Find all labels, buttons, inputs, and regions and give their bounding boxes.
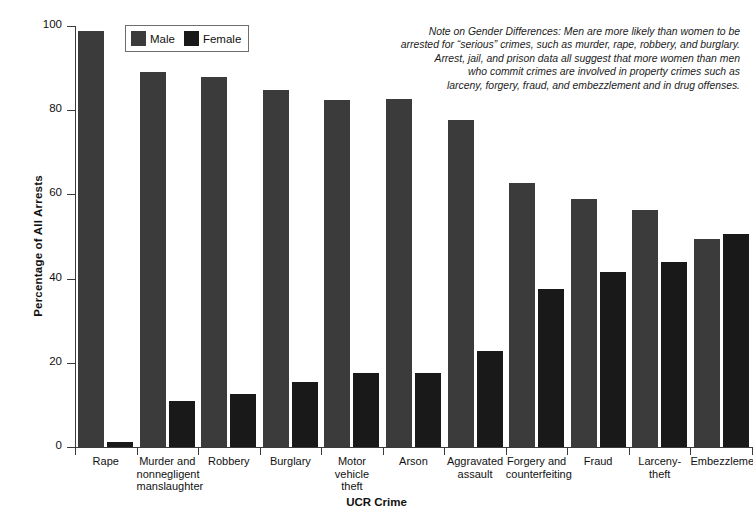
category-label-line: Forgery and	[506, 455, 568, 468]
note-line: larceny, forgery, fraud, and embezzlemen…	[400, 79, 740, 92]
category-label-line: assault	[444, 468, 506, 481]
y-axis-tick-label: 100	[22, 18, 62, 30]
y-axis-tick	[67, 363, 76, 364]
bar-female	[107, 442, 133, 447]
bar-female	[353, 373, 379, 447]
category-label-line: Arson	[383, 455, 445, 468]
bar-male	[201, 77, 227, 447]
category-label-line: counterfeiting	[506, 468, 568, 481]
x-axis-title: UCR Crime	[0, 496, 753, 508]
x-axis-category-label: Murder andnonnegligentmanslaughter	[137, 455, 199, 493]
bar-chart: 020406080100 Percentage of All Arrests R…	[0, 0, 753, 520]
x-axis-category-label: Larceny-theft	[629, 455, 691, 480]
bar-female	[230, 394, 256, 447]
category-label-line: Murder and	[137, 455, 199, 468]
bar-male	[140, 72, 166, 447]
bar-female	[600, 272, 626, 447]
y-axis-line	[75, 26, 76, 448]
x-axis-category-label: Rape	[75, 455, 137, 468]
category-label-line: theft	[321, 480, 383, 493]
bar-female	[292, 382, 318, 447]
x-axis-tick	[198, 447, 199, 455]
note-line: who commit crimes are involved in proper…	[400, 65, 740, 78]
bar-female	[538, 289, 564, 447]
bar-female	[415, 373, 441, 447]
x-axis-category-label: Aggravatedassault	[444, 455, 506, 480]
legend-swatch-male-icon	[131, 31, 146, 46]
bar-female	[661, 262, 687, 447]
y-axis-tick-label: 0	[22, 439, 62, 451]
x-axis-category-label: Fraud	[567, 455, 629, 468]
x-axis-tick	[444, 447, 445, 455]
legend-label-male: Male	[150, 33, 175, 45]
category-label-line: manslaughter	[137, 480, 199, 493]
x-axis-tick	[629, 447, 630, 455]
y-axis-title-wrap: Percentage of All Arrests	[18, 40, 40, 420]
bar-male	[694, 239, 720, 447]
bar-male	[263, 90, 289, 447]
x-axis-tick	[567, 447, 568, 455]
x-axis-category-label: Forgery andcounterfeiting	[506, 455, 568, 480]
x-axis-category-label: Robbery	[198, 455, 260, 468]
x-axis-tick	[506, 447, 507, 455]
note-line: arrested for “serious” crimes, such as m…	[400, 38, 740, 51]
category-label-line: Burglary	[260, 455, 322, 468]
bar-male	[448, 120, 474, 447]
x-axis-tick	[260, 447, 261, 455]
category-label-line: Robbery	[198, 455, 260, 468]
y-axis-tick	[67, 279, 76, 280]
bar-female	[169, 401, 195, 447]
bar-female	[723, 234, 749, 447]
y-axis-tick	[67, 110, 76, 111]
y-axis-tick	[67, 26, 76, 27]
note-line: Arrest, jail, and prison data all sugges…	[400, 52, 740, 65]
note-line: Note on Gender Differences: Men are more…	[400, 25, 740, 38]
legend-label-female: Female	[203, 33, 241, 45]
bar-female	[477, 351, 503, 447]
x-axis-category-label: Motor vehicletheft	[321, 455, 383, 493]
x-axis-tick	[383, 447, 384, 455]
category-label-line: Aggravated	[444, 455, 506, 468]
x-axis-tick	[137, 447, 138, 455]
x-axis-tick	[75, 447, 76, 455]
category-label-line: theft	[629, 468, 691, 481]
bar-male	[632, 210, 658, 447]
bar-male	[571, 199, 597, 447]
legend-swatch-female-icon	[184, 31, 199, 46]
legend-item-male: Male	[131, 31, 175, 46]
y-axis-tick	[67, 194, 76, 195]
x-axis-category-label: Embezzlement	[690, 455, 752, 468]
bar-male	[324, 100, 350, 447]
category-label-line: Rape	[75, 455, 137, 468]
y-axis-title: Percentage of All Arrests	[32, 66, 44, 426]
category-label-line: Fraud	[567, 455, 629, 468]
bar-male	[386, 99, 412, 447]
category-label-line: nonnegligent	[137, 468, 199, 481]
bar-male	[509, 183, 535, 447]
legend: Male Female	[125, 25, 249, 52]
x-axis-category-label: Burglary	[260, 455, 322, 468]
category-label-line: Embezzlement	[690, 455, 752, 468]
category-label-line: Motor vehicle	[321, 455, 383, 480]
category-label-line: Larceny-	[629, 455, 691, 468]
bar-male	[78, 31, 104, 447]
legend-item-female: Female	[184, 31, 241, 46]
x-axis-line	[75, 447, 753, 448]
x-axis-tick	[321, 447, 322, 455]
x-axis-category-label: Arson	[383, 455, 445, 468]
x-axis-tick	[690, 447, 691, 455]
gender-differences-note: Note on Gender Differences: Men are more…	[400, 25, 740, 92]
